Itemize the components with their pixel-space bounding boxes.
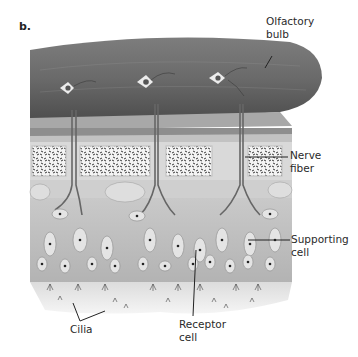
olfactory-diagram: b. Olfactory bulb Nerve fiber Supporting…	[0, 0, 358, 357]
label-cilia: Cilia	[70, 323, 93, 336]
mucus-layer	[30, 282, 292, 314]
label-nerve-fiber: Nerve fiber	[290, 149, 321, 175]
diagram-illustration	[0, 0, 358, 357]
label-supporting-cell: Supporting cell	[291, 233, 349, 259]
bone-layer	[30, 142, 292, 180]
label-receptor-cell: Receptor cell	[179, 318, 226, 344]
label-olfactory-bulb: Olfactory bulb	[266, 15, 314, 41]
panel-letter: b.	[19, 20, 31, 33]
olfactory-bulb	[30, 38, 322, 120]
